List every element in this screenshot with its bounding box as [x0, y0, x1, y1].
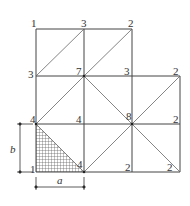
node-label: 4 — [30, 113, 36, 125]
node-label: 4 — [76, 113, 82, 125]
node-label: 2 — [128, 17, 134, 29]
node-label: 3 — [81, 17, 87, 29]
node-label: 7 — [76, 65, 82, 77]
node-label: 2 — [125, 161, 131, 173]
node-label: 3 — [28, 68, 34, 80]
node-label: 2 — [173, 113, 179, 125]
node-label: 3 — [124, 65, 130, 77]
grid-diagram: b a 1 3 2 3 7 3 2 4 4 8 2 1 4 2 2 — [0, 0, 190, 206]
node-label: 2 — [173, 65, 179, 77]
node-label: 4 — [77, 158, 83, 170]
node-label: 2 — [167, 161, 173, 173]
label-b: b — [10, 143, 16, 155]
label-a: a — [57, 174, 63, 186]
node-label: 1 — [30, 163, 36, 175]
node-label: 8 — [126, 110, 132, 122]
node-label: 1 — [31, 17, 37, 29]
